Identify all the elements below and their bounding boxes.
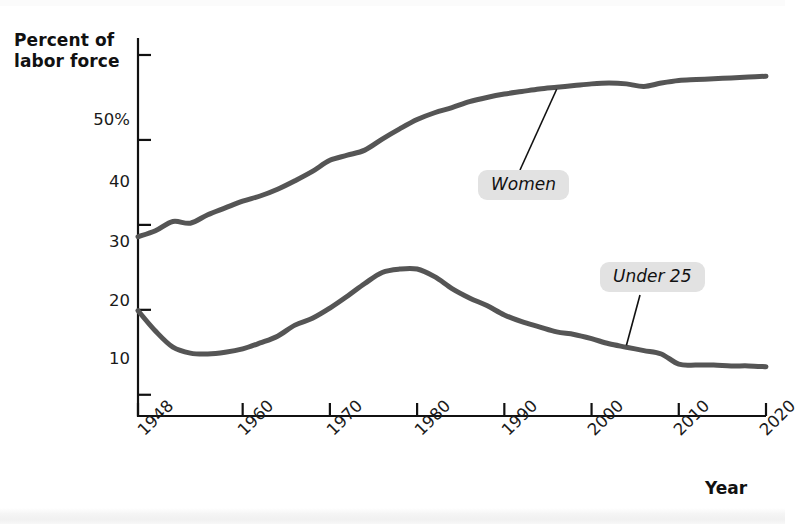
leader-line-women <box>520 89 557 170</box>
y-tick-label-4: 10 <box>78 349 130 368</box>
series-label-women: Women <box>478 170 569 200</box>
y-tick-label-0: 50% <box>78 110 130 129</box>
y-tick-label-2: 30 <box>78 232 130 251</box>
series-line-women <box>138 76 766 237</box>
series-label-under25: Under 25 <box>600 262 705 292</box>
x-axis-title: Year <box>705 478 747 498</box>
y-tick-label-3: 20 <box>78 291 130 310</box>
y-tick-labels: 50%40302010 <box>74 0 130 440</box>
scan-artifact-bottom <box>0 508 785 524</box>
y-tick-label-1: 40 <box>78 172 130 191</box>
y-tick-marks <box>138 55 151 395</box>
leader-line-under25 <box>626 295 640 345</box>
